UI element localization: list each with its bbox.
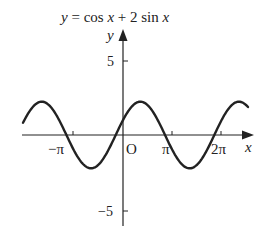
y-tick-label-5: 5 [107,54,114,69]
x-axis-label: x [244,139,252,155]
x-tick-label-negpi: −π [48,141,64,157]
y-axis-label: y [105,27,114,43]
y-tick-label-neg5: −5 [98,204,113,219]
x-tick-label-2pi: 2π [211,141,227,157]
y-axis-arrow-icon [119,29,128,41]
origin-label: O [126,141,137,157]
chart: y = cos x + 2 sin x y x 5 −5 −π π 2π O [0,0,271,239]
chart-title: y = cos x + 2 sin x [59,9,170,25]
